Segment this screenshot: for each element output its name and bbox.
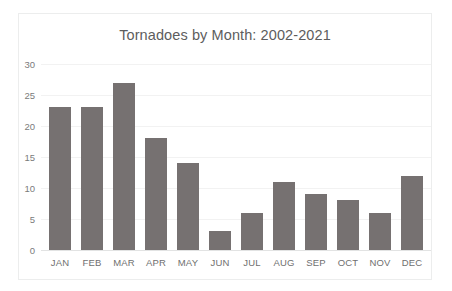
x-axis-tick-label: NOV	[369, 257, 390, 268]
y-axis-tick-label: 25	[24, 90, 35, 101]
x-axis-tick-label: APR	[146, 257, 166, 268]
bar-oct[interactable]	[337, 200, 358, 250]
x-axis-tick-label: AUG	[273, 257, 294, 268]
gridline: 0	[41, 250, 431, 251]
y-axis-tick-label: 20	[24, 121, 35, 132]
x-axis-tick-label: JAN	[51, 257, 70, 268]
bar-apr[interactable]	[145, 138, 166, 250]
bar-slot: APR	[140, 64, 172, 250]
y-axis-tick-label: 10	[24, 183, 35, 194]
bar-nov[interactable]	[369, 213, 390, 250]
x-axis-tick-label: OCT	[338, 257, 359, 268]
bar-mar[interactable]	[113, 83, 134, 250]
bar-slot: JAN	[44, 64, 76, 250]
bar-aug[interactable]	[273, 182, 294, 250]
y-axis-tick-label: 30	[24, 59, 35, 70]
bar-slot: MAR	[108, 64, 140, 250]
bar-jan[interactable]	[49, 107, 70, 250]
y-axis-tick-label: 0	[30, 245, 35, 256]
bar-slot: JUN	[204, 64, 236, 250]
x-axis-tick-label: FEB	[82, 257, 101, 268]
y-axis-tick-label: 15	[24, 152, 35, 163]
bar-feb[interactable]	[81, 107, 102, 250]
y-axis-tick-label: 5	[30, 214, 35, 225]
x-axis-tick-label: SEP	[306, 257, 326, 268]
x-axis-tick-label: JUN	[210, 257, 229, 268]
x-axis-tick-label: JUL	[243, 257, 261, 268]
chart-frame: Tornadoes by Month: 2002-2021 0510152025…	[18, 13, 432, 280]
x-axis-tick-label: MAY	[178, 257, 198, 268]
bar-slot: OCT	[332, 64, 364, 250]
bar-slot: DEC	[396, 64, 428, 250]
bar-jul[interactable]	[241, 213, 262, 250]
plot-area: 051015202530 JANFEBMARAPRMAYJUNJULAUGSEP…	[41, 64, 431, 250]
bar-slot: MAY	[172, 64, 204, 250]
bar-slot: FEB	[76, 64, 108, 250]
bar-may[interactable]	[177, 163, 198, 250]
x-axis-tick-label: MAR	[113, 257, 135, 268]
x-axis-tick-label: DEC	[402, 257, 423, 268]
chart-title: Tornadoes by Month: 2002-2021	[19, 27, 431, 43]
bar-slot: JUL	[236, 64, 268, 250]
bar-sep[interactable]	[305, 194, 326, 250]
bar-slot: NOV	[364, 64, 396, 250]
bar-slot: SEP	[300, 64, 332, 250]
bar-dec[interactable]	[401, 176, 422, 250]
bar-jun[interactable]	[209, 231, 230, 250]
bar-series: JANFEBMARAPRMAYJUNJULAUGSEPOCTNOVDEC	[41, 64, 431, 250]
bar-slot: AUG	[268, 64, 300, 250]
